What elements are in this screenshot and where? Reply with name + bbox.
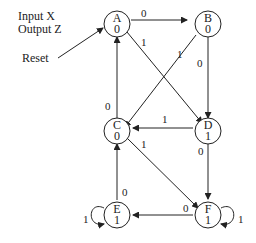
state-c: C 0 bbox=[104, 118, 130, 144]
label-f-e: 0 bbox=[183, 202, 189, 214]
label-c-a: 0 bbox=[105, 100, 111, 112]
svg-text:1: 1 bbox=[114, 213, 120, 227]
state-b: B 0 bbox=[195, 11, 221, 37]
reset-label: Reset bbox=[22, 51, 49, 65]
label-e-c: 0 bbox=[122, 186, 128, 198]
label-a-d: 1 bbox=[141, 36, 147, 48]
label-d-c: 1 bbox=[162, 113, 168, 125]
edge-b-c bbox=[125, 35, 196, 127]
state-d: D 1 bbox=[195, 118, 221, 144]
svg-text:0: 0 bbox=[114, 22, 120, 36]
reset-arrow bbox=[58, 28, 103, 58]
label-d-f: 0 bbox=[198, 145, 204, 157]
label-e-e: 1 bbox=[83, 213, 89, 225]
label-b-d: 0 bbox=[197, 57, 203, 69]
edge-c-f bbox=[127, 138, 198, 208]
svg-text:0: 0 bbox=[114, 129, 120, 143]
label-b-c: 1 bbox=[177, 48, 183, 60]
svg-text:1: 1 bbox=[205, 213, 211, 227]
svg-text:1: 1 bbox=[205, 129, 211, 143]
state-diagram: Reset 0 1 1 0 0 1 1 0 0 bbox=[0, 0, 256, 243]
state-f: F 1 bbox=[195, 202, 221, 228]
edge-labels: 0 1 1 0 0 1 1 0 0 1 0 1 bbox=[83, 7, 244, 225]
edge-e-e bbox=[91, 207, 104, 225]
label-c-f: 1 bbox=[141, 138, 147, 150]
svg-text:0: 0 bbox=[205, 22, 211, 36]
label-f-f: 1 bbox=[238, 213, 244, 225]
edge-f-f bbox=[221, 207, 234, 225]
state-e: E 1 bbox=[104, 202, 130, 228]
label-a-b: 0 bbox=[141, 7, 147, 19]
state-a: A 0 bbox=[104, 11, 130, 37]
